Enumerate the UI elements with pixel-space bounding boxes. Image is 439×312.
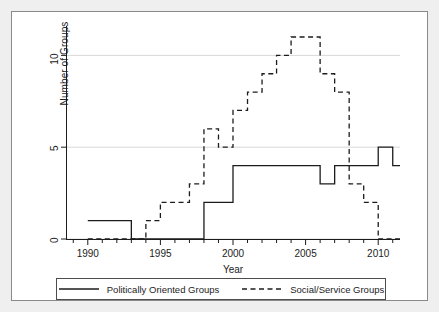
x-tick-label-2010: 2010 — [358, 248, 398, 259]
solid-line-icon — [58, 285, 100, 293]
plot-area — [66, 26, 400, 239]
legend-entry: Social/Service Groups — [241, 284, 384, 295]
legend-label: Social/Service Groups — [290, 284, 384, 295]
figure-frame: Number of Groups Year 0510 1990199520002… — [11, 11, 428, 301]
series-line-politically-oriented — [88, 147, 400, 239]
y-tick-label-0: 0 — [49, 238, 60, 260]
x-tick-label-2005: 2005 — [286, 248, 326, 259]
y-tick-label-5: 5 — [49, 146, 60, 168]
x-axis-title: Year — [66, 264, 400, 275]
legend-entry: Politically Oriented Groups — [58, 284, 219, 295]
plot-wrapper: Number of Groups Year 0510 1990199520002… — [12, 12, 429, 302]
chart-legend: Politically Oriented GroupsSocial/Servic… — [56, 278, 386, 300]
y-tick-label-10: 10 — [49, 54, 60, 76]
x-tick-label-2000: 2000 — [213, 248, 253, 259]
x-axis-ticks — [66, 239, 400, 245]
dashed-line-icon — [241, 285, 283, 293]
x-tick-label-1990: 1990 — [68, 248, 108, 259]
series-line-social-service — [88, 37, 400, 239]
chart-svg — [66, 26, 400, 249]
legend-label: Politically Oriented Groups — [107, 284, 219, 295]
screenshot-root: Number of Groups Year 0510 1990199520002… — [0, 0, 439, 312]
x-tick-label-1995: 1995 — [140, 248, 180, 259]
